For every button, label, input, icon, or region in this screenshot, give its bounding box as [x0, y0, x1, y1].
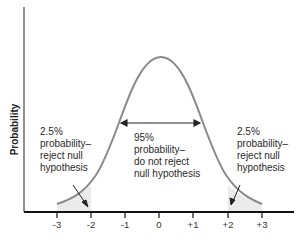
tick-label-0: 0 [156, 219, 161, 230]
left-tail-annotation: 2.5% probability– reject null hypothesis [40, 126, 91, 174]
tick-label-minus1: -1 [121, 219, 129, 230]
center-line4: null hypothesis [134, 168, 200, 180]
right-tail-line2: probability– [237, 138, 288, 150]
y-axis-label: Probability [9, 100, 20, 160]
left-tail-shade [57, 185, 91, 212]
right-tail-shade [228, 185, 262, 212]
right-tail-line4: hypothesis [237, 162, 288, 174]
center-annotation: 95% probability– do not reject null hypo… [134, 132, 200, 180]
tick-label-minus2: -2 [87, 219, 95, 230]
central-interval-arrow [121, 120, 200, 126]
right-tail-percent: 2.5% [237, 126, 288, 138]
left-tail-line3: reject null [40, 150, 91, 162]
center-percent: 95% [134, 132, 200, 144]
right-tail-annotation: 2.5% probability– reject null hypothesis [237, 126, 288, 174]
tail-pointer-arrows [73, 185, 240, 207]
left-tail-percent: 2.5% [40, 126, 91, 138]
tick-label-plus3: +3 [257, 219, 268, 230]
center-line3: do not reject [134, 156, 200, 168]
left-tail-line2: probability– [40, 138, 91, 150]
left-tail-line4: hypothesis [40, 162, 91, 174]
tick-label-minus3: -3 [53, 219, 61, 230]
tick-label-plus2: +2 [223, 219, 234, 230]
tick-label-plus1: +1 [188, 219, 199, 230]
normal-distribution-chart [0, 0, 302, 244]
center-line2: probability– [134, 144, 200, 156]
right-tail-line3: reject null [237, 150, 288, 162]
